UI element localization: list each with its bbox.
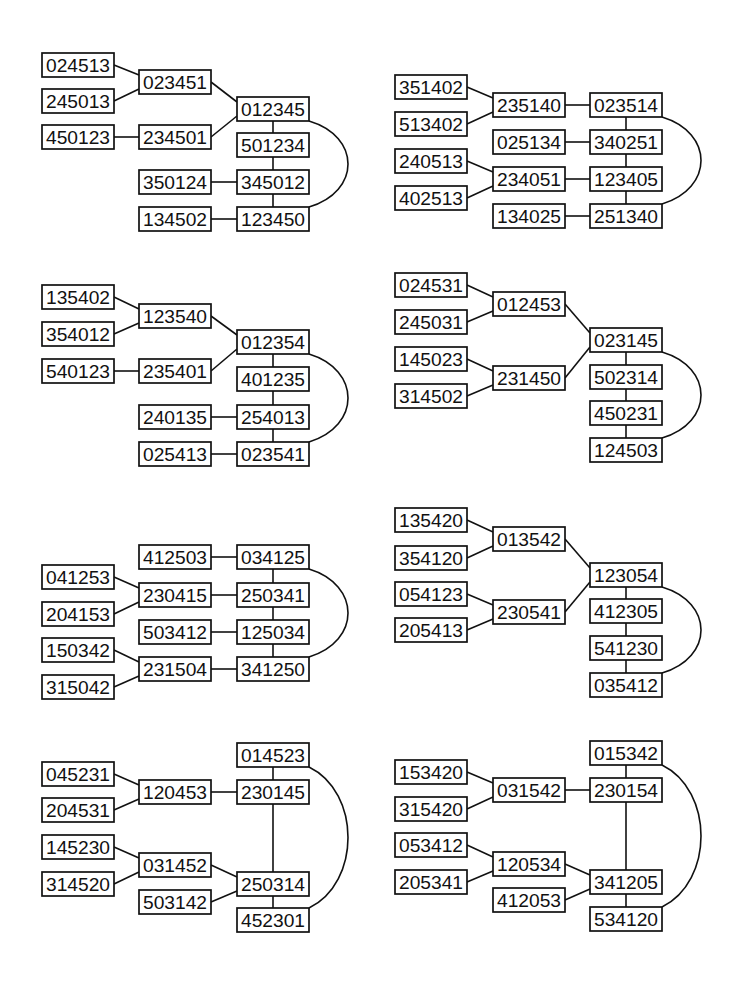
node-label: 023514	[594, 95, 658, 116]
diagram-8: 0153421534200315422301543154200534121205…	[395, 741, 701, 931]
node-label: 230415	[143, 585, 207, 606]
permutation-node: 502314	[590, 365, 662, 389]
permutation-node: 534120	[590, 907, 662, 931]
edge-153420-031542	[467, 772, 493, 783]
node-label: 230541	[497, 602, 561, 623]
arc-edge-034125-341250	[309, 569, 348, 657]
edge-204531-120453	[114, 799, 139, 810]
node-label: 012354	[241, 332, 305, 353]
permutation-node: 503142	[139, 890, 211, 914]
node-label: 205341	[399, 872, 463, 893]
permutation-node: 340251	[590, 130, 662, 154]
edge-245013-023451	[114, 89, 139, 101]
permutation-node: 345012	[237, 170, 309, 194]
edge-024513-023451	[114, 65, 139, 75]
node-label: 540123	[46, 361, 110, 382]
permutation-node: 135402	[42, 285, 114, 309]
node-label: 135420	[399, 510, 463, 531]
node-label: 401235	[241, 369, 305, 390]
node-label: 204153	[46, 604, 110, 625]
node-label: 341250	[241, 659, 305, 680]
arc-edge-123054-035412	[662, 587, 701, 673]
node-label: 120453	[143, 782, 207, 803]
permutation-node: 254013	[237, 405, 309, 429]
permutation-node: 412053	[493, 888, 565, 912]
permutation-node: 031542	[493, 778, 565, 802]
permutation-node: 134025	[493, 204, 565, 228]
node-label: 045231	[46, 764, 110, 785]
permutation-node: 250341	[237, 583, 309, 607]
edge-234501-012345	[211, 116, 237, 137]
permutation-node: 245013	[42, 89, 114, 113]
diagram-3: 1354023540125401231235402354012401350254…	[42, 285, 348, 466]
node-label: 035412	[594, 675, 658, 696]
edge-315042-231504	[114, 676, 139, 687]
permutation-node: 230541	[493, 600, 565, 624]
arc-edge-023145-124503	[662, 352, 701, 438]
permutation-node: 025134	[493, 130, 565, 154]
permutation-node: 314502	[395, 384, 467, 408]
permutation-node: 354012	[42, 322, 114, 346]
node-label: 245031	[399, 312, 463, 333]
node-label: 120534	[497, 854, 561, 875]
permutation-node: 145230	[42, 835, 114, 859]
node-label: 351402	[399, 77, 463, 98]
node-label: 315420	[399, 799, 463, 820]
edge-354012-123540	[114, 323, 139, 334]
edge-145230-031452	[114, 847, 139, 858]
figure-canvas: 0245132450134501230234512345013501241345…	[0, 0, 741, 984]
node-label: 025413	[143, 444, 207, 465]
permutation-node: 024513	[42, 53, 114, 77]
permutation-node: 120534	[493, 852, 565, 876]
edge-054123-230541	[467, 594, 493, 605]
edge-314520-031452	[114, 872, 139, 884]
edge-204153-230415	[114, 602, 139, 614]
node-label: 023451	[143, 72, 207, 93]
edge-012453-023145	[565, 304, 590, 333]
node-label: 204531	[46, 800, 110, 821]
edge-230541-123054	[565, 582, 590, 612]
permutation-node: 251340	[590, 204, 662, 228]
node-label: 145230	[46, 837, 110, 858]
node-label: 205413	[399, 620, 463, 641]
node-label: 502314	[594, 367, 658, 388]
edge-503142-250314	[211, 891, 237, 902]
node-label: 012453	[497, 294, 561, 315]
edge-354120-013542	[467, 546, 493, 558]
node-label: 450123	[46, 127, 110, 148]
node-label: 402513	[399, 188, 463, 209]
node-label: 534120	[594, 909, 658, 930]
node-label: 314502	[399, 386, 463, 407]
permutation-node: 125034	[237, 620, 309, 644]
permutation-node: 354120	[395, 546, 467, 570]
node-label: 134025	[497, 206, 561, 227]
permutation-node: 025413	[139, 442, 211, 466]
edge-135420-013542	[467, 520, 493, 532]
node-label: 145023	[399, 349, 463, 370]
node-label: 014523	[241, 745, 305, 766]
edge-240513-234051	[467, 161, 493, 172]
permutation-node: 240513	[395, 149, 467, 173]
node-label: 340251	[594, 132, 658, 153]
permutation-node: 235401	[139, 359, 211, 383]
node-label: 231450	[497, 368, 561, 389]
permutation-node: 123450	[237, 207, 309, 231]
diagram-2: 3514025134022405134025132351400251342340…	[395, 75, 701, 228]
permutation-node: 540123	[42, 359, 114, 383]
permutation-node: 501234	[237, 133, 309, 157]
node-label: 230154	[594, 780, 658, 801]
node-label: 123540	[143, 306, 207, 327]
edge-041253-230415	[114, 577, 139, 588]
edge-351402-235140	[467, 87, 493, 98]
node-label: 235401	[143, 361, 207, 382]
edge-314502-231450	[467, 385, 493, 396]
edge-024531-012453	[467, 285, 493, 297]
node-label: 125034	[241, 622, 305, 643]
permutation-node: 315042	[42, 675, 114, 699]
permutation-graph-figure: 0245132450134501230234512345013501241345…	[0, 0, 741, 984]
permutation-node: 350124	[139, 170, 211, 194]
permutation-node: 153420	[395, 760, 467, 784]
permutation-node: 231504	[139, 657, 211, 681]
node-label: 354012	[46, 324, 110, 345]
node-label: 153420	[399, 762, 463, 783]
